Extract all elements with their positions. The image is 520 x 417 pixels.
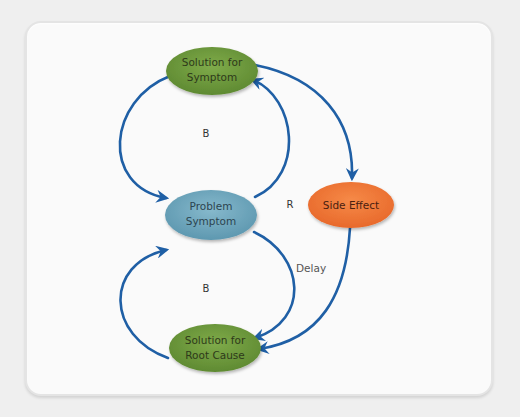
node-solution-for-root-cause[interactable]: Solution for Root Cause: [169, 324, 261, 372]
edge-solution-symptom-to-side-effect: [255, 65, 352, 178]
node-solution-for-symptom-line2: Symptom: [187, 71, 238, 83]
edge-solution-symptom-to-problem: [120, 76, 170, 198]
edge-root-cause-to-problem: [120, 250, 168, 358]
node-solution-for-symptom[interactable]: Solution for Symptom: [166, 47, 258, 95]
node-problem-symptom-line2: Symptom: [186, 215, 237, 227]
causal-loop-diagram: Solution for Symptom Problem Symptom Sol…: [0, 0, 520, 417]
node-solution-for-symptom-line1: Solution for: [182, 56, 243, 68]
loop-label-balancing-bottom: B: [203, 283, 210, 294]
node-solution-for-root-cause-line2: Root Cause: [185, 349, 244, 361]
node-side-effect[interactable]: Side Effect: [308, 182, 394, 228]
edge-problem-to-root-cause: [254, 232, 294, 338]
loop-label-balancing-top: B: [203, 128, 210, 139]
node-problem-symptom[interactable]: Problem Symptom: [165, 190, 257, 240]
edge-problem-to-solution-symptom: [253, 80, 289, 197]
node-solution-for-root-cause-line1: Solution for: [185, 334, 246, 346]
loop-label-reinforcing: R: [287, 199, 294, 210]
node-side-effect-label: Side Effect: [323, 199, 379, 211]
node-problem-symptom-line1: Problem: [190, 200, 233, 212]
diagram-stage: Solution for Symptom Problem Symptom Sol…: [0, 0, 520, 417]
edge-label-delay: Delay: [296, 262, 326, 274]
